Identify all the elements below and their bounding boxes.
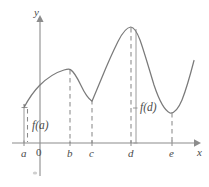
function-curve (24, 27, 194, 113)
graph-canvas (0, 0, 209, 187)
x-axis-label: x (197, 147, 202, 158)
function-graph-figure: y x 0 a b c d e f(a) f(d) (0, 0, 209, 187)
label-f-of-d: f(d) (140, 102, 157, 114)
origin-label: 0 (36, 147, 42, 158)
x-tick-label-c: c (89, 148, 94, 159)
x-tick-label-a: a (21, 148, 27, 159)
x-tick-label-b: b (67, 148, 73, 159)
x-tick-label-e: e (169, 148, 174, 159)
page-artifact-mark (33, 171, 37, 174)
x-tick-label-d: d (128, 148, 134, 159)
y-axis-label: y (34, 7, 39, 18)
label-f-of-a: f(a) (32, 120, 49, 132)
